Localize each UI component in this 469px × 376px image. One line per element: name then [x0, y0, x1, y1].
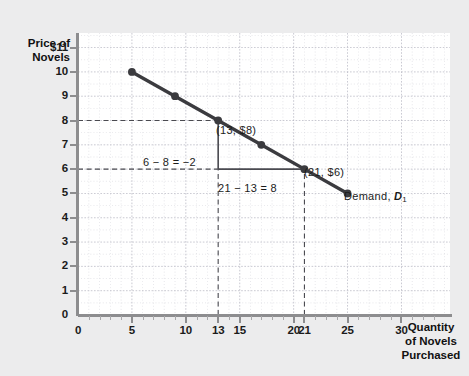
demand-curve-label-text: Demand, — [344, 190, 394, 202]
y-tick-label-3: 3 — [8, 235, 68, 247]
x-tick-13 — [217, 316, 219, 323]
x-tick-minor-31 — [412, 316, 413, 320]
x-tick-minor-29 — [391, 316, 392, 320]
x-tick-minor-3 — [110, 316, 111, 320]
y-tick-label-4: 4 — [8, 211, 68, 223]
y-tick-label-11: $11 — [8, 41, 68, 53]
x-tick-label-25: 25 — [328, 324, 368, 336]
y-tick-11 — [70, 47, 77, 49]
y-tick-label-7: 7 — [8, 138, 68, 150]
x-tick-15 — [239, 316, 241, 323]
x-axis-title-line-3: Purchased — [393, 348, 469, 362]
y-tick-6 — [70, 168, 77, 170]
y-tick-label-6: 6 — [8, 162, 68, 174]
x-tick-minor-7 — [153, 316, 154, 320]
x-tick-minor-19 — [283, 316, 284, 320]
x-tick-25 — [347, 316, 349, 323]
x-axis-line — [78, 314, 452, 317]
x-tick-minor-23 — [326, 316, 327, 320]
x-tick-minor-8 — [164, 316, 165, 320]
x-tick-minor-9 — [175, 316, 176, 320]
y-tick-label-9: 9 — [8, 89, 68, 101]
x-tick-minor-32 — [423, 316, 424, 320]
annotation-run: 21 − 13 = 8 — [218, 182, 277, 194]
y-tick-label-10: 10 — [8, 65, 68, 77]
x-tick-21 — [303, 316, 305, 323]
x-tick-label-15: 15 — [220, 324, 260, 336]
x-tick-30 — [400, 316, 402, 323]
y-tick-4 — [70, 217, 77, 219]
demand-curve-figure: Price of Novels Quantity of Novels Purch… — [0, 0, 469, 376]
x-tick-minor-28 — [380, 316, 381, 320]
x-tick-label-0: 0 — [58, 324, 98, 336]
x-tick-minor-22 — [315, 316, 316, 320]
y-tick-2 — [70, 265, 77, 267]
x-axis-title-line-2: of Novels — [393, 334, 469, 348]
annotation-point-21-6: (21, $6) — [304, 166, 344, 178]
demand-curve-label-subscript: 1 — [402, 195, 407, 204]
y-tick-label-0: 0 — [8, 308, 68, 320]
x-tick-5 — [131, 316, 133, 323]
annotation-point-13-8: (13, $8) — [216, 124, 256, 136]
x-tick-minor-18 — [272, 316, 273, 320]
y-tick-5 — [70, 192, 77, 194]
x-tick-minor-14 — [229, 316, 230, 320]
x-tick-minor-2 — [100, 316, 101, 320]
y-axis-line — [76, 33, 79, 316]
plot-area — [78, 33, 450, 315]
x-tick-label-5: 5 — [112, 324, 152, 336]
y-tick-1 — [70, 290, 77, 292]
x-tick-20 — [293, 316, 295, 323]
x-tick-label-30: 30 — [381, 324, 421, 336]
x-tick-minor-16 — [251, 316, 252, 320]
y-tick-label-2: 2 — [8, 259, 68, 271]
x-tick-minor-24 — [337, 316, 338, 320]
x-tick-minor-1 — [89, 316, 90, 320]
y-tick-3 — [70, 241, 77, 243]
x-tick-minor-12 — [207, 316, 208, 320]
y-tick-10 — [70, 71, 77, 73]
y-tick-label-8: 8 — [8, 114, 68, 126]
x-tick-minor-17 — [261, 316, 262, 320]
x-tick-minor-27 — [369, 316, 370, 320]
x-tick-minor-11 — [197, 316, 198, 320]
x-tick-minor-26 — [358, 316, 359, 320]
demand-curve-plot — [78, 33, 450, 315]
x-tick-10 — [185, 316, 187, 323]
y-tick-label-5: 5 — [8, 186, 68, 198]
y-tick-9 — [70, 95, 77, 97]
x-tick-label-21: 21 — [284, 324, 324, 336]
x-tick-minor-6 — [143, 316, 144, 320]
x-tick-minor-4 — [121, 316, 122, 320]
y-tick-label-1: 1 — [8, 284, 68, 296]
demand-curve-label: Demand, D1 — [344, 190, 407, 204]
y-tick-7 — [70, 144, 77, 146]
annotation-rise: 6 − 8 = −2 — [143, 156, 196, 168]
x-tick-minor-33 — [434, 316, 435, 320]
y-tick-8 — [70, 120, 77, 122]
